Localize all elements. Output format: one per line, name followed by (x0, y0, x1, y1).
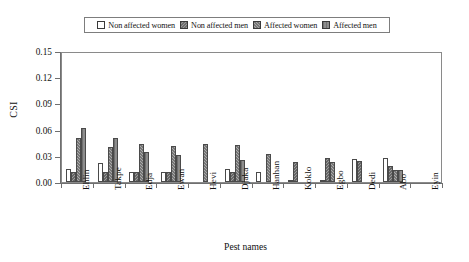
x-category-label: Abo (398, 174, 408, 190)
bar (256, 172, 261, 182)
bar (293, 162, 298, 182)
legend-item-non-affected-men: Non affected men (180, 21, 248, 30)
x-category-label: Hanhan (271, 161, 281, 190)
bar-group (129, 53, 149, 182)
x-tick (156, 184, 157, 188)
x-tick (442, 184, 443, 188)
bar-group (352, 53, 372, 182)
bar-group (320, 53, 340, 182)
legend-swatch-icon (253, 21, 261, 29)
legend-label: Non affected women (108, 21, 175, 30)
legend-swatch-icon (180, 21, 188, 29)
x-tick (252, 184, 253, 188)
x-category-label: Egbo (335, 170, 345, 190)
bar-chart: Non affected women Non affected men Affe… (0, 0, 469, 262)
bar-group (383, 53, 403, 182)
bar-group (193, 53, 213, 182)
bar-group (415, 53, 435, 182)
x-category-label: Ehlin (81, 170, 91, 190)
bar-group (66, 53, 86, 182)
x-tick (93, 184, 94, 188)
x-category-label: Edja (144, 173, 154, 190)
x-category-label: Ewan (176, 169, 186, 190)
x-tick (220, 184, 221, 188)
chart-legend: Non affected women Non affected men Affe… (84, 17, 390, 33)
legend-item-non-affected-women: Non affected women (97, 21, 175, 30)
x-category-label: Eyin (430, 172, 440, 190)
x-category-label: Djaka (240, 168, 250, 190)
legend-label: Affected men (333, 21, 376, 30)
legend-swatch-icon (97, 21, 105, 29)
x-tick (379, 184, 380, 188)
legend-item-affected-women: Affected women (253, 21, 317, 30)
y-axis-title: CSI (8, 90, 19, 130)
bar-group (98, 53, 118, 182)
x-tick (61, 184, 62, 188)
legend-swatch-icon (322, 21, 330, 29)
plot-area (61, 52, 442, 183)
y-tick-label: 0.00 (20, 178, 52, 188)
x-tick (125, 184, 126, 188)
x-category-label: Hevi (208, 172, 218, 190)
x-tick (315, 184, 316, 188)
x-category-label: Koklo (303, 167, 313, 190)
x-tick (188, 184, 189, 188)
y-tick-label: 0.12 (20, 73, 52, 83)
x-category-label: Takpe (113, 167, 123, 190)
y-tick-label: 0.06 (20, 126, 52, 136)
y-tick-label: 0.15 (20, 47, 52, 57)
bar-group (225, 53, 245, 182)
y-tick-label: 0.03 (20, 152, 52, 162)
x-tick (410, 184, 411, 188)
legend-label: Affected women (264, 21, 317, 30)
x-tick (347, 184, 348, 188)
y-tick-label: 0.09 (20, 99, 52, 109)
legend-label: Non affected men (191, 21, 248, 30)
bar-group (161, 53, 181, 182)
bars-layer (62, 53, 441, 182)
x-category-label: Dedi (367, 172, 377, 190)
x-tick (283, 184, 284, 188)
bar (357, 161, 362, 182)
x-axis-title: Pest names (0, 241, 469, 252)
bar-group (288, 53, 308, 182)
legend-item-affected-men: Affected men (322, 21, 376, 30)
